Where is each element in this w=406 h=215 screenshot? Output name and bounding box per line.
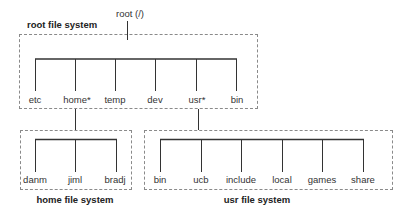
dir-local: local: [272, 174, 292, 185]
root-node-label: root (/): [116, 8, 144, 19]
dir-share: share: [351, 174, 375, 185]
dir-bradj: bradj: [104, 174, 125, 185]
file-system-diagram: root (/) root file system etc home* temp…: [0, 0, 406, 215]
dir-danm: danm: [23, 174, 47, 185]
dir-ucb: ucb: [193, 174, 208, 185]
dir-dev: dev: [147, 94, 162, 105]
dir-jiml: jiml: [68, 174, 82, 185]
dir-etc: etc: [29, 94, 42, 105]
dir-games: games: [308, 174, 337, 185]
dir-bin: bin: [231, 94, 244, 105]
dir-temp: temp: [104, 94, 125, 105]
dir-usr-bin: bin: [154, 174, 167, 185]
dir-include: include: [226, 174, 256, 185]
dir-usr: usr*: [189, 94, 206, 105]
home-file-system-title: home file system: [36, 194, 113, 205]
dir-home: home*: [63, 94, 90, 105]
usr-file-system-title: usr file system: [224, 194, 291, 205]
root-file-system-title: root file system: [27, 19, 97, 30]
